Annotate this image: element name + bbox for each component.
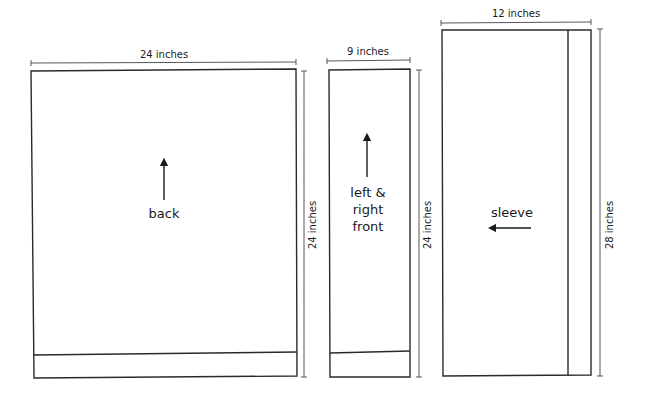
- front-ribbing-line: [330, 351, 410, 353]
- back-outline: [31, 69, 297, 378]
- front-piece: left & right front 9 inches 24 inches: [327, 46, 433, 377]
- back-width-dim-line: [31, 62, 296, 63]
- sleeve-piece: sleeve 12 inches 28 inches: [441, 8, 615, 376]
- front-width-dim-line: [327, 60, 410, 61]
- sleeve-height-label: 28 inches: [604, 201, 615, 249]
- back-ribbing-line: [33, 352, 297, 355]
- back-piece: back 24 inches 24 inches: [31, 49, 318, 378]
- back-label: back: [149, 206, 180, 221]
- front-label-line-2: right: [353, 202, 384, 217]
- front-label-line-1: left &: [350, 185, 385, 200]
- schematic-canvas: back 24 inches 24 inches left & right fr…: [0, 0, 646, 397]
- front-width-label: 9 inches: [347, 46, 389, 57]
- front-label-line-3: front: [353, 219, 384, 234]
- back-height-label: 24 inches: [307, 201, 318, 249]
- sleeve-label: sleeve: [491, 205, 533, 220]
- front-height-label: 24 inches: [422, 201, 433, 249]
- sleeve-width-label: 12 inches: [492, 8, 540, 19]
- sleeve-width-dim-line: [441, 22, 591, 23]
- back-width-label: 24 inches: [140, 49, 188, 60]
